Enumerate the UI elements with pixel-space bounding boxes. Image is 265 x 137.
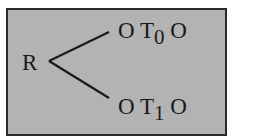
branch-line-bottom	[49, 61, 109, 98]
branch-0-subscript: 0	[154, 25, 165, 49]
branch-1: O T1 O	[118, 95, 187, 118]
branch-0-left: O	[118, 18, 135, 43]
branch-0-symbol: T	[140, 18, 154, 43]
branch-1-right: O	[170, 94, 187, 119]
root-label: R	[22, 51, 37, 74]
branch-1-symbol: T	[140, 94, 154, 119]
branch-0: O T0 O	[118, 19, 187, 42]
branch-line-top	[49, 32, 109, 61]
branch-1-subscript: 1	[154, 101, 165, 125]
branch-1-left: O	[118, 94, 135, 119]
branch-0-right: O	[170, 18, 187, 43]
